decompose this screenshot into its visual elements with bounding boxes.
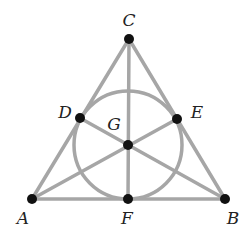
label-a: A bbox=[15, 208, 29, 228]
point-d bbox=[75, 113, 85, 123]
line-bgd bbox=[80, 118, 225, 199]
point-g bbox=[123, 140, 133, 150]
label-f: F bbox=[120, 208, 134, 228]
label-c: C bbox=[122, 10, 135, 30]
label-d: D bbox=[57, 102, 72, 122]
point-b bbox=[220, 194, 230, 204]
label-g: G bbox=[107, 114, 121, 134]
point-c bbox=[124, 34, 134, 44]
label-b: B bbox=[226, 208, 240, 228]
label-e: E bbox=[190, 102, 204, 122]
fano-plane-diagram: ABCDEFG bbox=[0, 0, 252, 243]
line-cgf bbox=[128, 39, 129, 199]
point-a bbox=[27, 194, 37, 204]
point-e bbox=[172, 114, 182, 124]
point-f bbox=[123, 194, 133, 204]
